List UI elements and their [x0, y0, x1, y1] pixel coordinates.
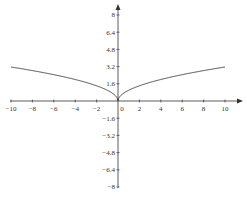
y-tick-label: −4.8	[102, 149, 115, 157]
x-tick-label: 4	[159, 105, 163, 113]
x-tick-label: −8	[29, 105, 37, 113]
x-axis-arrow-icon	[237, 99, 243, 104]
x-tick-label: −10	[6, 105, 17, 113]
y-tick-label: −3.2	[102, 132, 115, 140]
x-tick-label: 0	[120, 105, 124, 113]
y-tick-label: −8	[108, 183, 116, 191]
y-axis-arrow-icon	[116, 4, 121, 10]
y-tick-label: 1.6	[106, 80, 115, 88]
x-tick-label: 6	[180, 105, 184, 113]
x-tick-label: 10	[222, 105, 230, 113]
chart: −10−8−6−4−2024681086.44.83.21.6−1.6−3.2−…	[0, 0, 247, 197]
x-tick-label: 8	[202, 105, 206, 113]
x-tick-label: 2	[138, 105, 142, 113]
y-tick-label: 4.8	[106, 46, 115, 54]
x-tick-label: −2	[93, 105, 101, 113]
y-tick-label: 3.2	[106, 63, 115, 71]
axes	[10, 4, 243, 188]
y-tick-label: −6.4	[102, 166, 115, 174]
x-tick-label: −4	[71, 105, 79, 113]
y-tick-label: 6.4	[106, 29, 115, 37]
y-tick-label: −1.6	[102, 115, 115, 123]
x-tick-label: −6	[50, 105, 58, 113]
y-tick-label: 8	[112, 11, 116, 19]
